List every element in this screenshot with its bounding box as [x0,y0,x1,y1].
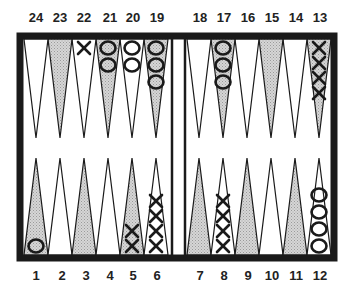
point-3[interactable] [72,158,96,255]
point-18[interactable] [187,39,211,138]
point-16[interactable] [235,39,259,138]
backgammon-board [0,0,352,294]
checkers-layer [29,42,327,253]
point-label-10: 10 [260,268,284,283]
point-label-5: 5 [121,268,145,283]
point-label-1: 1 [24,268,48,283]
point-label-2: 2 [50,268,74,283]
points-layer [24,39,331,255]
point-7[interactable] [187,158,211,255]
point-15[interactable] [259,39,283,138]
point-label-11: 11 [284,268,308,283]
point-label-12: 12 [308,268,332,283]
point-label-7: 7 [188,268,212,283]
point-8[interactable] [211,158,235,255]
point-23[interactable] [48,39,72,138]
bottom-point-labels: 1 2 3 4 5 6 7 8 9 10 11 12 [0,268,352,288]
point-11[interactable] [283,158,307,255]
point-label-6: 6 [145,268,169,283]
point-6[interactable] [144,158,168,255]
point-label-3: 3 [74,268,98,283]
point-2[interactable] [48,158,72,255]
point-24[interactable] [24,39,48,138]
point-label-9: 9 [236,268,260,283]
point-9[interactable] [235,158,259,255]
point-5[interactable] [120,158,144,255]
point-label-8: 8 [212,268,236,283]
point-14[interactable] [283,39,307,138]
point-10[interactable] [259,158,283,255]
point-13[interactable] [307,39,331,138]
point-4[interactable] [96,158,120,255]
point-22[interactable] [72,39,96,138]
point-label-4: 4 [98,268,122,283]
